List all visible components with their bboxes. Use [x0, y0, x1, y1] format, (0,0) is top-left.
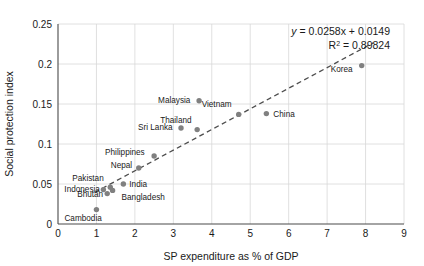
- data-point-marker: [264, 111, 269, 116]
- r-squared-value: = 0.89824: [340, 39, 390, 51]
- r-squared-annotation: R2 = 0.89824: [329, 39, 391, 51]
- data-point-marker: [151, 153, 156, 158]
- data-point-marker: [178, 125, 183, 130]
- data-point-label: Nepal: [111, 161, 133, 170]
- y-tick-label: 0.05: [33, 179, 53, 190]
- data-point-marker: [359, 63, 364, 68]
- data-point-label: Indonesia: [64, 185, 100, 194]
- x-tick-label: 6: [286, 228, 292, 239]
- data-point-marker: [105, 191, 110, 196]
- equation-expression: = 0.0258x + 0.0149: [297, 25, 391, 37]
- x-tick-label: 0: [55, 228, 61, 239]
- data-point-marker: [121, 181, 126, 186]
- y-tick-label: 0.25: [33, 19, 53, 30]
- trendline-equation-annotation: y = 0.0258x + 0.0149: [290, 25, 390, 37]
- x-axis-title: SP expenditure as % of GDP: [163, 250, 298, 262]
- data-point-label: Vietnam: [202, 100, 232, 109]
- x-tick-label: 4: [209, 228, 215, 239]
- scatter-chart: 0123456789 00.050.10.150.20.25 CambodiaB…: [0, 0, 424, 266]
- x-axis-tick-labels: 0123456789: [55, 228, 407, 239]
- data-point-label: Korea: [331, 65, 353, 74]
- x-tick-label: 7: [324, 228, 330, 239]
- data-point-label: China: [273, 110, 295, 119]
- data-point-label: Thailand: [160, 116, 192, 125]
- x-tick-label: 3: [171, 228, 177, 239]
- data-point-label: Pakistan: [72, 174, 104, 183]
- x-tick-label: 9: [401, 228, 407, 239]
- data-point-label: Cambodia: [64, 214, 102, 223]
- data-point-marker: [194, 127, 199, 132]
- data-point-label: Philippines: [105, 148, 145, 157]
- y-tick-label: 0.15: [33, 99, 53, 110]
- data-point-label: India: [129, 180, 147, 189]
- y-axis-title: Social protection index: [3, 70, 15, 176]
- data-point-label: Malaysia: [158, 96, 191, 105]
- x-tick-label: 5: [247, 228, 253, 239]
- data-point-marker: [236, 112, 241, 117]
- y-tick-label: 0.1: [38, 139, 52, 150]
- data-point-marker: [110, 188, 115, 193]
- y-axis-tick-labels: 00.050.10.150.20.25: [33, 19, 53, 230]
- x-tick-label: 2: [132, 228, 138, 239]
- data-point-label: Bangladesh: [122, 193, 166, 202]
- chart-canvas: 0123456789 00.050.10.150.20.25 CambodiaB…: [0, 0, 424, 266]
- data-point-marker: [136, 165, 141, 170]
- y-tick-label: 0.2: [38, 59, 52, 70]
- data-points: [94, 63, 365, 212]
- data-point-marker: [94, 207, 99, 212]
- y-tick-label: 0: [46, 219, 52, 230]
- x-tick-label: 1: [94, 228, 100, 239]
- x-tick-label: 8: [363, 228, 369, 239]
